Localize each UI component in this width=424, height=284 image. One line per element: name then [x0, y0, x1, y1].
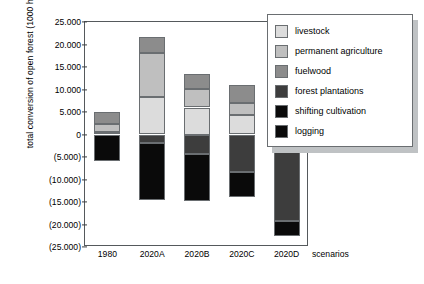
bar-segment[interactable] — [184, 108, 210, 135]
legend-label: livestock — [295, 26, 330, 36]
y-axis-tick-label: 0 — [76, 130, 81, 140]
bar-segment[interactable] — [94, 124, 120, 132]
bar-segment[interactable] — [139, 135, 165, 143]
y-axis-tick-mark — [82, 44, 87, 45]
bar-segment[interactable] — [229, 115, 255, 135]
legend-label: permanent agriculture — [295, 46, 383, 56]
legend-label: logging — [295, 126, 324, 136]
bar-segment[interactable] — [94, 112, 120, 124]
bar-segment[interactable] — [139, 53, 165, 97]
bar-segment[interactable] — [229, 85, 255, 103]
legend-item[interactable]: shifting cultivation — [275, 101, 412, 121]
y-axis-tick-label: 10.000 — [55, 85, 81, 95]
legend-item[interactable]: livestock — [275, 21, 412, 41]
y-axis-tick-mark — [82, 134, 87, 135]
legend-swatch — [275, 45, 288, 58]
y-axis-tick-label: (15.000) — [49, 197, 81, 207]
y-axis-tick-label: 15.000 — [55, 62, 81, 72]
legend-swatch — [275, 65, 288, 78]
bar-segment[interactable] — [139, 37, 165, 53]
x-axis-tick-label: 2020C — [229, 249, 254, 259]
bar-column[interactable]: 1980 — [94, 22, 120, 245]
x-axis-tick-label: 2020B — [185, 249, 210, 259]
y-axis-tick-mark — [82, 224, 87, 225]
y-axis-tick-mark — [82, 179, 87, 180]
y-axis-tick-label: (10.000) — [49, 175, 81, 185]
legend-item[interactable]: fuelwood — [275, 61, 412, 81]
y-axis-tick-label: (25.000) — [49, 242, 81, 252]
bar-column[interactable]: 2020C — [229, 22, 255, 245]
y-axis-tick-label: 25.000 — [55, 17, 81, 27]
x-axis-tick-label: 2020A — [140, 249, 165, 259]
y-axis-tick-label: 20.000 — [55, 40, 81, 50]
y-axis-tick-mark — [82, 246, 87, 247]
bar-segment[interactable] — [94, 135, 120, 161]
y-axis-tick-mark — [82, 66, 87, 67]
bar-segment[interactable] — [229, 103, 255, 114]
legend-swatch — [275, 25, 288, 38]
bar-segment[interactable] — [139, 97, 165, 134]
bar-segment[interactable] — [274, 221, 300, 236]
legend-label: forest plantations — [295, 86, 364, 96]
y-axis-tick-label: (20.000) — [49, 220, 81, 230]
legend-swatch — [275, 125, 288, 138]
bar-column[interactable]: 2020A — [139, 22, 165, 245]
bar-column[interactable]: 2020B — [184, 22, 210, 245]
chart-legend: livestockpermanent agriculturefuelwoodfo… — [267, 14, 413, 147]
legend-item[interactable]: logging — [275, 121, 412, 141]
chart-figure: total conversion of open forest (1000 ha… — [0, 0, 424, 284]
legend-label: fuelwood — [295, 66, 331, 76]
x-axis-title: scenarios — [312, 249, 349, 259]
legend-item[interactable]: forest plantations — [275, 81, 412, 101]
y-axis-tick-mark — [82, 156, 87, 157]
y-axis-tick-label: (5.000) — [54, 152, 81, 162]
bar-segment[interactable] — [184, 74, 210, 89]
y-axis-tick-mark — [82, 21, 87, 22]
legend-item[interactable]: permanent agriculture — [275, 41, 412, 61]
y-axis-tick-mark — [82, 201, 87, 202]
bar-segment[interactable] — [184, 154, 210, 200]
x-axis-tick-label: 2020D — [274, 249, 299, 259]
bar-segment[interactable] — [184, 89, 210, 107]
bar-segment[interactable] — [184, 135, 210, 155]
legend-swatch — [275, 105, 288, 118]
bar-segment[interactable] — [229, 172, 255, 197]
y-axis-tick-label: 5.000 — [59, 107, 81, 117]
y-axis-tick-mark — [82, 111, 87, 112]
bar-segment[interactable] — [139, 143, 165, 201]
y-axis-title: total conversion of open forest (1000 ha… — [25, 0, 35, 180]
y-axis-tick-mark — [82, 89, 87, 90]
x-axis-tick-label: 1980 — [98, 249, 117, 259]
bar-segment[interactable] — [229, 135, 255, 172]
legend-label: shifting cultivation — [295, 106, 366, 116]
legend-swatch — [275, 85, 288, 98]
